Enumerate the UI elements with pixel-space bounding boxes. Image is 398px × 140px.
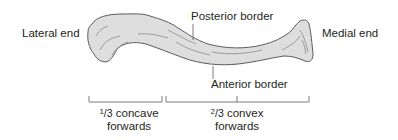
caption-line1: convex	[224, 107, 264, 119]
lateral-third-caption: 1/3 concave forwards	[96, 105, 162, 133]
medial-end-label: Medial end	[322, 28, 378, 40]
posterior-border-label: Posterior border	[191, 11, 273, 23]
lateral-third-bracket	[89, 96, 162, 102]
medial-two-thirds-bracket	[166, 96, 309, 102]
caption-line2: forwards	[205, 120, 269, 133]
caption-line1: concave	[113, 107, 159, 119]
lateral-end-label: Lateral end	[22, 28, 80, 40]
fraction-denominator: /3	[215, 107, 224, 119]
fraction-denominator: /3	[104, 107, 113, 119]
anterior-border-label: Anterior border	[211, 79, 288, 91]
caption-line2: forwards	[96, 120, 162, 133]
medial-two-thirds-caption: 2/3 convex forwards	[205, 105, 269, 133]
